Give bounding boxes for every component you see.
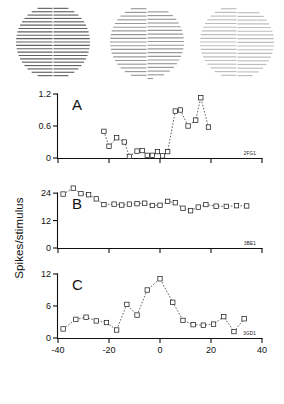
stimulus-aligned xyxy=(12,2,94,82)
panel-letter: C xyxy=(72,276,83,293)
y-tick-label: 24 xyxy=(41,188,51,198)
y-tick-label: 12 xyxy=(41,216,51,226)
stimulus-offset-large xyxy=(196,2,278,82)
y-tick-label: 0 xyxy=(46,153,51,163)
stimulus-offset-mid xyxy=(106,2,188,82)
cell-id-label: 3BE1 xyxy=(244,241,256,246)
y-tick-label: 0 xyxy=(46,333,51,343)
panel-C: 0612-40-2002040C3GD1 xyxy=(0,266,284,356)
cell-id-label: 3GD1 xyxy=(243,331,256,336)
y-tick-label: 6 xyxy=(46,301,51,311)
x-tick-label: -20 xyxy=(102,345,115,355)
y-tick-label: 0 xyxy=(46,243,51,253)
panel-letter: A xyxy=(72,96,82,113)
x-tick-label: 0 xyxy=(157,345,162,355)
cell-id-label: 2FG1 xyxy=(244,151,257,156)
data-series-line xyxy=(63,279,244,332)
figure-body: Spikes/stimulus 00.61.2A2FG1 01224B3BE1 … xyxy=(0,86,284,404)
data-point-markers xyxy=(61,186,249,213)
data-point-markers xyxy=(102,96,211,159)
y-tick-label: 12 xyxy=(41,269,51,279)
x-tick-label: 40 xyxy=(257,345,267,355)
stimulus-row xyxy=(0,0,284,86)
panel-letter: B xyxy=(72,195,82,212)
data-point-markers xyxy=(61,277,246,334)
panel-B: 01224B3BE1 xyxy=(0,176,284,266)
y-tick-label: 1.2 xyxy=(38,89,51,99)
data-series-line xyxy=(63,188,247,211)
panel-A: 00.61.2A2FG1 xyxy=(0,86,284,176)
data-series-line xyxy=(104,98,209,157)
y-tick-label: 0.6 xyxy=(38,121,51,131)
x-tick-label: 20 xyxy=(206,345,216,355)
x-tick-label: -40 xyxy=(51,345,64,355)
